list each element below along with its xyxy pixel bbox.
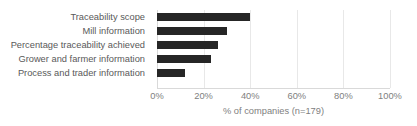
tick-label: 0%	[135, 90, 179, 103]
gridline	[390, 10, 391, 88]
category-label: Traceability scope	[0, 10, 150, 24]
tick-label: 80%	[321, 90, 365, 103]
tick-label: 60%	[275, 90, 319, 103]
category-label: Process and trader information	[0, 66, 150, 80]
bar	[157, 55, 211, 63]
plot-area	[157, 10, 390, 88]
gridline	[343, 10, 344, 88]
category-label: Percentage traceability achieved	[0, 38, 150, 52]
horizontal-bar-chart: Traceability scope Mill information Perc…	[0, 0, 417, 126]
value-axis-tick-labels: 0% 20% 40% 60% 80% 100%	[0, 90, 417, 104]
gridline	[204, 10, 205, 88]
category-label: Grower and farmer information	[0, 52, 150, 66]
bar	[157, 13, 250, 21]
value-axis-line	[157, 88, 390, 89]
category-axis-labels: Traceability scope Mill information Perc…	[0, 10, 150, 88]
bar	[157, 69, 185, 77]
tick-label: 100%	[368, 90, 412, 103]
tick-label: 40%	[228, 90, 272, 103]
bar	[157, 41, 218, 49]
bar	[157, 27, 227, 35]
gridline	[250, 10, 251, 88]
gridline	[297, 10, 298, 88]
tick-label: 20%	[182, 90, 226, 103]
category-label: Mill information	[0, 24, 150, 38]
value-axis-title: % of companies (n=179)	[157, 106, 390, 116]
